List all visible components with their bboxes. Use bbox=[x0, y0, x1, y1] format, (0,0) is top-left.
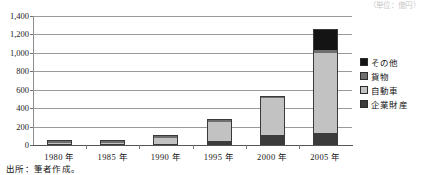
source-note: 出所：筆者作成。 bbox=[6, 162, 80, 174]
x-tick-mark bbox=[139, 145, 140, 149]
y-axis-tick-label: 800 bbox=[16, 67, 29, 76]
x-tick-mark bbox=[86, 145, 87, 149]
bar-group bbox=[153, 16, 178, 145]
stacked-bar bbox=[313, 29, 338, 145]
legend-label: 貨物 bbox=[371, 70, 389, 82]
stacked-bar bbox=[100, 140, 125, 145]
x-tick-mark bbox=[299, 145, 300, 149]
bar-segment-企業財産 bbox=[313, 133, 338, 145]
y-tick-mark bbox=[30, 16, 33, 17]
legend-label: 自動車 bbox=[371, 84, 399, 96]
bar-segment-企業財産 bbox=[153, 144, 178, 145]
x-axis-tick-label: 1990 年 bbox=[151, 150, 182, 162]
bar-segment-企業財産 bbox=[47, 144, 72, 145]
legend-swatch-icon bbox=[360, 58, 368, 66]
x-axis-tick-label: 2005 年 bbox=[310, 150, 341, 162]
gridline bbox=[33, 127, 352, 128]
bar-group bbox=[207, 16, 232, 145]
gridline bbox=[33, 90, 352, 91]
legend-label: 企業財産 bbox=[371, 98, 408, 110]
legend-item-貨物: 貨物 bbox=[360, 69, 422, 83]
y-tick-mark bbox=[30, 127, 33, 128]
x-axis-tick-label: 1995 年 bbox=[204, 150, 235, 162]
y-tick-mark bbox=[30, 71, 33, 72]
bar-segment-自動車 bbox=[313, 53, 338, 133]
legend-swatch-icon bbox=[360, 72, 368, 80]
gridline bbox=[33, 108, 352, 109]
bar-segment-企業財産 bbox=[100, 144, 125, 145]
bar-group bbox=[47, 16, 72, 145]
legend-item-その他: その他 bbox=[360, 55, 422, 69]
gridline bbox=[33, 34, 352, 35]
bar-group bbox=[100, 16, 125, 145]
legend-label: その他 bbox=[371, 56, 399, 68]
y-axis-tick-label: 400 bbox=[16, 104, 29, 113]
y-tick-mark bbox=[30, 108, 33, 109]
bar-segment-自動車 bbox=[207, 122, 232, 141]
bar-segment-その他 bbox=[313, 29, 338, 50]
y-axis-tick-label: 600 bbox=[16, 85, 29, 94]
x-tick-mark bbox=[193, 145, 194, 149]
y-axis-tick-label: 0 bbox=[25, 141, 29, 150]
chart-legend: その他貨物自動車企業財産 bbox=[360, 55, 422, 111]
gridline bbox=[33, 53, 352, 54]
stacked-bar bbox=[260, 96, 285, 145]
stacked-bar bbox=[153, 135, 178, 145]
x-axis-tick-label: 2000 年 bbox=[257, 150, 288, 162]
legend-item-企業財産: 企業財産 bbox=[360, 97, 422, 111]
plot-area: 02004006008001,0001,2001,400 bbox=[33, 16, 352, 145]
figure-stacked-bar-chart: （単位：億円） 02004006008001,0001,2001,400 その他… bbox=[0, 0, 423, 175]
bar-group bbox=[313, 16, 338, 145]
y-tick-mark bbox=[30, 53, 33, 54]
y-tick-mark bbox=[30, 34, 33, 35]
y-axis-tick-label: 1,400 bbox=[10, 12, 29, 21]
stacked-bar bbox=[207, 119, 232, 145]
bar-segment-企業財産 bbox=[260, 135, 285, 145]
unit-caption: （単位：億円） bbox=[369, 0, 420, 10]
x-tick-mark bbox=[246, 145, 247, 149]
y-axis-tick-label: 1,200 bbox=[10, 30, 29, 39]
bar-segment-企業財産 bbox=[207, 141, 232, 145]
gridline bbox=[33, 16, 352, 17]
legend-swatch-icon bbox=[360, 100, 368, 108]
y-axis-tick-label: 1,000 bbox=[10, 49, 29, 58]
x-axis-tick-label: 1980 年 bbox=[44, 150, 75, 162]
legend-item-自動車: 自動車 bbox=[360, 83, 422, 97]
gridline bbox=[33, 71, 352, 72]
y-tick-mark bbox=[30, 145, 33, 146]
x-axis-tick-label: 1985 年 bbox=[97, 150, 128, 162]
bar-segment-自動車 bbox=[260, 98, 285, 134]
y-tick-mark bbox=[30, 90, 33, 91]
y-axis-tick-label: 200 bbox=[16, 122, 29, 131]
bar-group bbox=[260, 16, 285, 145]
stacked-bar bbox=[47, 140, 72, 145]
legend-swatch-icon bbox=[360, 86, 368, 94]
